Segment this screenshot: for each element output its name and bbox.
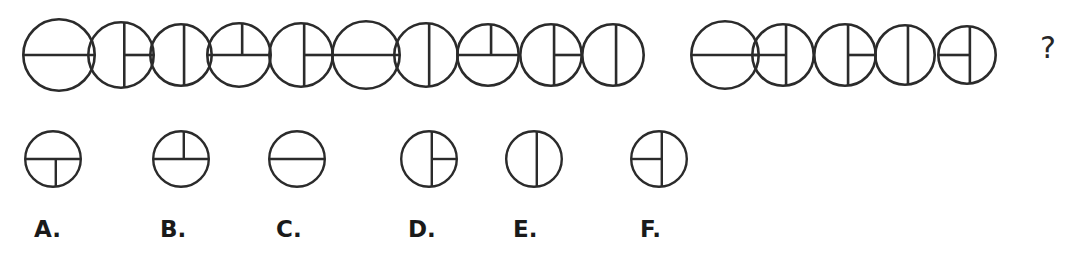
circle-h-full-6 xyxy=(331,20,401,90)
circle-v-full-h-right-5 xyxy=(268,22,334,88)
circle-v-full-h-right-9 xyxy=(519,23,583,87)
circle-v-full-h-right-13 xyxy=(813,23,877,87)
question-mark: ? xyxy=(1040,33,1056,63)
circle-v-full-h-left-15 xyxy=(937,25,997,85)
option-b[interactable] xyxy=(152,130,210,188)
circle-h-full-v-top-8 xyxy=(456,23,520,87)
option-d-label: D. xyxy=(408,218,436,241)
circle-v-full-14 xyxy=(874,24,936,86)
option-c-label: C. xyxy=(276,218,302,241)
matrix-reasoning-puzzle: ? A.B.C.D.E.F. xyxy=(0,0,1083,261)
circle-v-full-7 xyxy=(393,22,459,88)
circle-v-full-3 xyxy=(149,23,213,87)
circle-v-full-h-left-12 xyxy=(751,23,815,87)
option-f-label: F. xyxy=(640,218,661,241)
circle-h-full-1 xyxy=(22,18,96,92)
circle-v-full-10 xyxy=(581,23,645,87)
option-a[interactable] xyxy=(24,130,82,188)
option-c[interactable] xyxy=(268,130,326,188)
option-e[interactable] xyxy=(505,130,563,188)
circle-h-full-11 xyxy=(690,20,760,90)
option-b-label: B. xyxy=(160,218,186,241)
option-f[interactable] xyxy=(630,130,688,188)
option-e-label: E. xyxy=(513,218,537,241)
option-d[interactable] xyxy=(400,130,458,188)
circle-h-full-v-top-4 xyxy=(206,22,272,88)
option-a-label: A. xyxy=(34,218,61,241)
circle-v-full-h-right-2 xyxy=(87,21,155,89)
